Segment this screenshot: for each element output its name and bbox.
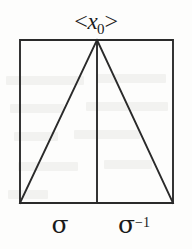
sigma-symbol-inverse: σ — [118, 210, 135, 239]
sigma-symbol: σ — [51, 210, 68, 239]
right-angle-bracket: > — [105, 8, 118, 34]
exponent-minus-one: −1 — [135, 215, 150, 230]
bottom-left-label: σ — [40, 212, 80, 237]
right-diagonal-path — [97, 40, 173, 203]
subscript-zero: 0 — [97, 21, 105, 37]
left-angle-bracket: < — [74, 8, 87, 34]
variable-x: x — [87, 9, 97, 34]
diagram-drawing — [0, 0, 192, 249]
apex-label: <x0> — [0, 9, 192, 37]
bottom-right-label: σ−1 — [108, 212, 160, 237]
left-diagonal-path — [20, 40, 97, 203]
figure-container: <x0> σ σ−1 — [0, 0, 192, 249]
